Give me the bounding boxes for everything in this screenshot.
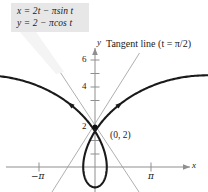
x-tick-label-neg-pi: −π [31, 171, 44, 181]
equation-line-x: x = 2t − πsin t [17, 6, 73, 16]
tangent-line-label: Tangent line (t = π/2) [106, 38, 191, 49]
equation-line-y: y = 2 − πcos t [17, 18, 72, 28]
y-axis-arrowhead [92, 48, 98, 55]
y-tick-label-2: 2 [82, 121, 87, 131]
point-coordinate-label: (0, 2) [110, 130, 131, 140]
y-tick-label-6: 6 [82, 54, 87, 64]
callout-leader-group [20, 32, 64, 74]
point-0-2-marker [93, 125, 98, 130]
x-tick-label-pi: π [148, 171, 154, 181]
equation-callout-box: x = 2t − πsin t y = 2 − πcos t [11, 3, 89, 32]
callout-leader [20, 32, 64, 74]
y-axis-label: y [97, 37, 101, 47]
x-axis-label: x [192, 160, 196, 170]
y-tick-label-4: 4 [82, 81, 87, 91]
x-axis-arrowhead [183, 164, 190, 170]
figure-container: x = 2t − πsin t y = 2 − πcos t Tangent l… [0, 0, 208, 192]
equation-x-text: x = 2t − πsin t [17, 6, 73, 16]
equation-y-text: y = 2 − πcos t [17, 18, 72, 28]
